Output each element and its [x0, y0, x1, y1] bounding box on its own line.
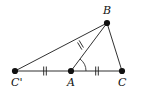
point-label-b: B: [102, 4, 111, 17]
segment-b-c: [107, 23, 122, 71]
point-label-c: C: [118, 76, 127, 89]
point-label-cprime: C': [11, 76, 22, 89]
vertex-dot-c: [119, 68, 125, 74]
angle-arcs-group: [80, 59, 86, 71]
vertex-dot-cprime: [12, 68, 18, 74]
geometry-figure: C' A C B: [0, 0, 151, 91]
vertex-dot-b: [104, 20, 110, 26]
figure-canvas: C' A C B: [0, 0, 151, 91]
angle-arc-bac: [80, 59, 86, 71]
segment-a-b: [71, 23, 107, 71]
vertex-dot-a: [68, 68, 74, 74]
point-labels-group: C' A C B: [11, 4, 127, 89]
point-label-a: A: [66, 76, 75, 89]
segments-group: [15, 23, 122, 71]
tick-mark-a-b: [78, 40, 84, 49]
segment-cprime-b: [15, 23, 107, 71]
